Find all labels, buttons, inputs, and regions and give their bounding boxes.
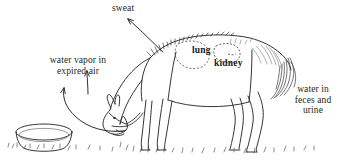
horse-halter — [109, 113, 143, 132]
sweat-arrow — [128, 19, 163, 52]
water-intake-arrow — [64, 88, 125, 131]
label-lung: lung — [192, 45, 211, 55]
label-water-feces-urine: water in feces and urine — [286, 84, 340, 116]
horse-diagram-illustration — [0, 0, 342, 164]
label-kidney: kidney — [214, 58, 243, 68]
water-balance-horse-figure: sweat water vapor in expired air water i… — [0, 0, 342, 164]
ground-grass — [8, 142, 314, 153]
label-sweat: sweat — [112, 3, 134, 14]
horse-legs — [141, 92, 263, 152]
label-water-vapor-expired-air: water vapor in expired air — [39, 55, 117, 76]
